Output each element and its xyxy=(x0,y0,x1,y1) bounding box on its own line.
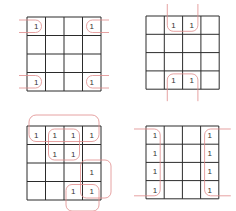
cell-value: 1 xyxy=(90,187,95,196)
kmap-svg: 1111 xyxy=(27,17,101,91)
cell-value: 1 xyxy=(34,22,39,31)
cell-value: 1 xyxy=(153,167,158,176)
cell-value: 1 xyxy=(53,131,58,140)
cell-value: 1 xyxy=(34,131,39,140)
cell-value: 1 xyxy=(90,168,95,177)
cell-value: 1 xyxy=(34,78,39,87)
cell-value: 1 xyxy=(90,78,95,87)
cell-value: 1 xyxy=(207,131,212,140)
grid-lines xyxy=(146,16,219,89)
cell-value: 1 xyxy=(90,131,95,140)
kmap-svg: 1111 xyxy=(146,16,219,89)
cell-value: 1 xyxy=(90,22,95,31)
kmap-corners: 1111 xyxy=(27,17,101,91)
kmap-mixed: 111111111 xyxy=(27,126,101,200)
cell-value: 1 xyxy=(71,150,76,159)
cell-value: 1 xyxy=(171,21,176,30)
cell-value: 1 xyxy=(171,76,176,85)
cell-value: 1 xyxy=(190,76,195,85)
cell-value: 1 xyxy=(153,149,158,158)
cell-value: 1 xyxy=(153,131,158,140)
cell-value: 1 xyxy=(207,186,212,195)
kmap-left-right-columns: 11111111 xyxy=(146,126,219,199)
kmap-svg: 111111111 xyxy=(27,126,101,200)
kmap-top-bottom-middle: 1111 xyxy=(146,16,219,89)
cell-value: 1 xyxy=(71,131,76,140)
kmap-svg: 11111111 xyxy=(146,126,219,199)
cell-value: 1 xyxy=(53,150,58,159)
cell-value: 1 xyxy=(207,167,212,176)
cell-value: 1 xyxy=(190,21,195,30)
cell-value: 1 xyxy=(153,186,158,195)
cell-value: 1 xyxy=(207,149,212,158)
cell-value: 1 xyxy=(71,187,76,196)
